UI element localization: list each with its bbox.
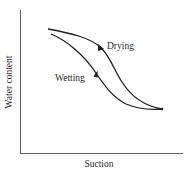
hysteresis-diagram: Drying Wetting Suction Water content <box>0 0 191 175</box>
y-axis-label: Water content <box>4 55 14 108</box>
curve-junction <box>161 108 164 111</box>
wetting-label: Wetting <box>55 73 85 83</box>
drying-label: Drying <box>107 41 134 51</box>
x-axis-label: Suction <box>84 159 113 169</box>
